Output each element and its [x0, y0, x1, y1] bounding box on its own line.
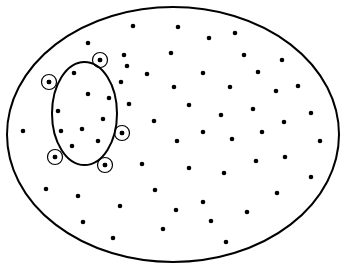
- inner-dot: [72, 71, 77, 76]
- outer-dot: [187, 103, 192, 108]
- outer-dot: [127, 102, 132, 107]
- outer-dot: [145, 72, 150, 77]
- outer-dot: [172, 85, 177, 90]
- outer-dot: [219, 113, 224, 118]
- outer-dot: [282, 120, 287, 125]
- outer-dot: [209, 219, 214, 224]
- outer-dot: [176, 25, 181, 30]
- outer-dot: [153, 188, 158, 193]
- outer-dot: [254, 159, 259, 164]
- outer-dot: [201, 200, 206, 205]
- outer-dot: [21, 129, 26, 134]
- outer-dot: [280, 58, 285, 63]
- outer-dot: [175, 139, 180, 144]
- outer-dot: [296, 84, 301, 89]
- outer-dot: [309, 175, 314, 180]
- outer-dot: [81, 220, 86, 225]
- outer-dot: [230, 137, 235, 142]
- inner-dot: [86, 92, 91, 97]
- outer-dot: [222, 171, 227, 176]
- outer-dot: [245, 210, 250, 215]
- outer-dot: [224, 240, 229, 245]
- inner-dot: [80, 127, 85, 132]
- outer-dot: [256, 70, 261, 75]
- outer-dot: [207, 36, 212, 41]
- outer-dot: [86, 41, 91, 46]
- background: [0, 0, 345, 268]
- outer-dot: [131, 24, 136, 29]
- outer-dot: [140, 162, 145, 167]
- outer-dot: [119, 80, 124, 85]
- outer-dot: [187, 166, 192, 171]
- outer-dot: [233, 31, 238, 36]
- boundary-dot: [53, 155, 58, 160]
- inner-dot: [107, 96, 112, 101]
- outer-dot: [318, 139, 323, 144]
- outer-dot: [169, 51, 174, 56]
- boundary-dot: [103, 163, 108, 168]
- outer-dot: [242, 53, 247, 58]
- outer-dot: [76, 194, 81, 199]
- outer-dot: [283, 155, 288, 160]
- outer-dot: [152, 119, 157, 124]
- inner-dot: [96, 139, 101, 144]
- outer-dot: [228, 85, 233, 90]
- outer-dot: [201, 71, 206, 76]
- boundary-dot: [98, 58, 103, 63]
- outer-dot: [44, 187, 49, 192]
- outer-dot: [111, 236, 116, 241]
- outer-dot: [161, 227, 166, 232]
- outer-dot: [260, 130, 265, 135]
- inner-dot: [101, 117, 106, 122]
- inner-dot: [70, 144, 75, 149]
- outer-dot: [125, 64, 130, 69]
- boundary-dot: [120, 131, 125, 136]
- set-diagram: [0, 0, 345, 268]
- outer-dot: [201, 130, 206, 135]
- inner-dot: [56, 109, 61, 114]
- outer-dot: [275, 191, 280, 196]
- boundary-dot: [47, 80, 52, 85]
- inner-dot: [59, 129, 64, 134]
- outer-dot: [274, 89, 279, 94]
- outer-dot: [174, 208, 179, 213]
- outer-dot: [309, 111, 314, 116]
- outer-dot: [118, 204, 123, 209]
- outer-dot: [251, 107, 256, 112]
- outer-dot: [122, 53, 127, 58]
